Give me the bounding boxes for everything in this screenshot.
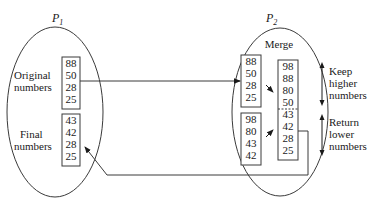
process-p1: P1 Original numbers 88 50 28 25 Final nu… [7, 11, 103, 197]
incoming-value: 50 [246, 67, 258, 79]
incoming-value: 88 [246, 55, 258, 67]
own-value: 80 [246, 125, 258, 137]
merged-value: 80 [283, 84, 295, 96]
keep-text-1: Keep [329, 65, 353, 77]
original-value: 50 [66, 69, 78, 81]
return-up-arrow-icon [320, 114, 325, 120]
final-value: 43 [66, 114, 78, 126]
return-text-2: lower [329, 128, 354, 140]
final-value: 25 [66, 150, 78, 162]
original-numbers-label-2: numbers [14, 81, 52, 93]
merged-value: 50 [283, 96, 295, 108]
own-value: 43 [246, 137, 258, 149]
merged-value: 98 [283, 60, 295, 72]
merged-value: 25 [283, 144, 295, 156]
merge-arrow-down-icon [266, 85, 273, 92]
keep-annotation: Keep higher numbers [320, 62, 367, 106]
final-value: 28 [66, 138, 78, 150]
incoming-value: 28 [246, 79, 258, 91]
merge-arrow-up-icon [266, 130, 273, 137]
merged-value: 43 [283, 108, 295, 120]
p1-ellipse [7, 27, 103, 197]
keep-down-arrow-icon [320, 100, 325, 106]
keep-text-2: higher [329, 77, 357, 89]
return-arrow-icon [85, 131, 308, 175]
p2-label: P2 [265, 11, 277, 27]
final-numbers-label-1: Final [20, 128, 43, 140]
original-value: 88 [66, 57, 78, 69]
merge-title: Merge [265, 38, 294, 50]
p1-label: P1 [51, 11, 63, 27]
process-p2: P2 Merge 88 50 28 25 98 80 43 42 98 88 8… [232, 11, 328, 196]
merged-value: 28 [283, 132, 295, 144]
own-value: 98 [246, 113, 258, 125]
own-value: 42 [246, 149, 257, 161]
compare-exchange-diagram: P1 Original numbers 88 50 28 25 Final nu… [0, 0, 379, 198]
merged-value: 42 [283, 120, 294, 132]
original-value: 25 [66, 93, 78, 105]
merged-value: 88 [283, 72, 295, 84]
keep-text-3: numbers [329, 89, 367, 101]
return-down-arrow-icon [320, 150, 325, 156]
final-value: 42 [66, 126, 77, 138]
final-numbers-label-2: numbers [14, 140, 52, 152]
original-numbers-label-1: Original [14, 69, 51, 81]
return-text-3: numbers [329, 140, 367, 152]
incoming-value: 25 [246, 91, 258, 103]
return-text-1: Return [329, 116, 359, 128]
original-value: 28 [66, 81, 78, 93]
